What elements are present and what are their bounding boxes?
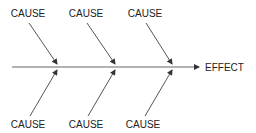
effect-label: EFFECT	[205, 62, 244, 73]
cause-top-2-bone	[87, 23, 115, 64]
cause-top-2-label: CAUSE	[69, 8, 104, 19]
cause-top-3-bone	[146, 23, 172, 64]
cause-bottom-2-label: CAUSE	[69, 119, 104, 130]
cause-top-1-bone	[29, 23, 57, 64]
cause-bottom-1-bone	[30, 70, 57, 116]
cause-bottom-3-bone	[145, 70, 172, 116]
cause-top-3-label: CAUSE	[128, 8, 163, 19]
cause-bottom-1-label: CAUSE	[11, 119, 46, 130]
cause-bottom-3-label: CAUSE	[126, 119, 161, 130]
cause-bottom-2-bone	[88, 70, 115, 116]
cause-top-1-label: CAUSE	[11, 8, 46, 19]
fishbone-diagram: EFFECT CAUSE CAUSE CAUSE CAUSE CAUSE CAU…	[0, 0, 256, 133]
